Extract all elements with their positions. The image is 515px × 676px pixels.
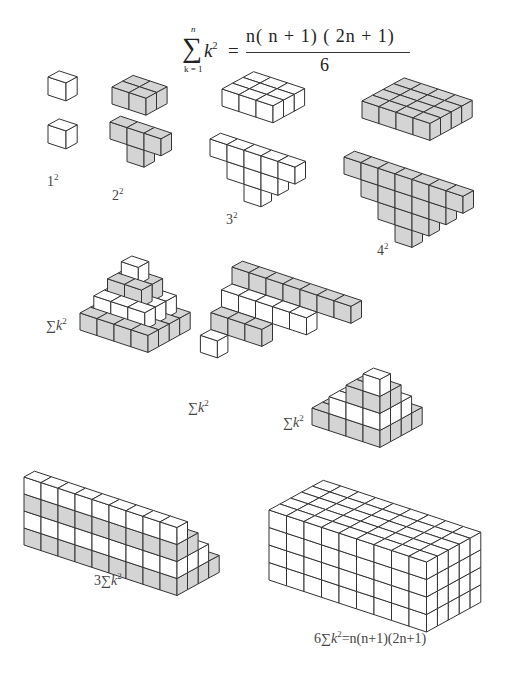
label-1-squared: 12 — [47, 174, 59, 190]
slab-2x2 — [112, 75, 167, 115]
tshape-2 — [110, 116, 172, 167]
label-three-sum: 3∑k2 — [94, 573, 122, 589]
rhs: =n(n+1)(2n+1) — [342, 631, 426, 646]
label-2-squared: 22 — [112, 188, 124, 204]
label-pyramid-sum: ∑k2 — [46, 318, 67, 334]
label-exp: 2 — [119, 186, 124, 196]
label-six-sum-identity: 6∑k2=n(n+1)(2n+1) — [314, 631, 426, 647]
sigma: ∑ — [188, 400, 198, 415]
staircase-a — [200, 261, 361, 358]
sigma: ∑ — [46, 318, 56, 333]
sigma: ∑ — [101, 573, 111, 588]
cube-1-top — [48, 71, 77, 101]
label-exp: 2 — [54, 172, 59, 182]
label-base: 4 — [377, 243, 384, 258]
exp: 2 — [204, 398, 209, 408]
pyramid-sum — [80, 256, 190, 352]
six-sum-box — [269, 480, 481, 632]
label-3-squared: 32 — [226, 212, 238, 228]
cube-diagrams — [0, 0, 515, 676]
coef: 6 — [314, 631, 321, 646]
sigma: ∑ — [321, 631, 331, 646]
staircase-b — [312, 368, 422, 447]
label-exp: 2 — [233, 210, 238, 220]
cube-1-bottom — [48, 119, 77, 149]
label-base: 3 — [226, 212, 233, 227]
label-base: 2 — [112, 188, 119, 203]
exp: 2 — [299, 413, 304, 423]
coef: 3 — [94, 573, 101, 588]
triangle-4 — [344, 151, 474, 247]
label-base: 1 — [47, 174, 54, 189]
label-4-squared: 42 — [377, 243, 389, 259]
triangle-3 — [210, 133, 306, 207]
label-exp: 2 — [384, 241, 389, 251]
exp: 2 — [117, 571, 122, 581]
sigma: ∑ — [283, 415, 293, 430]
label-staircase-a-sum: ∑k2 — [188, 400, 209, 416]
label-staircase-b-sum: ∑k2 — [283, 415, 304, 431]
slab-3x3 — [222, 72, 305, 123]
exp: 2 — [62, 316, 67, 326]
slab-4x4 — [362, 78, 472, 140]
